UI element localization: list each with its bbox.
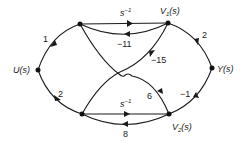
edge-gain-label: s−1 (120, 7, 131, 18)
node-b (80, 112, 85, 117)
node-label-v2: V2(s) (172, 122, 192, 133)
edge-v2-to-y: −1 (169, 68, 212, 114)
node-label-u: U(s) (13, 65, 30, 75)
edge-b-to-v2: s−1 (82, 98, 169, 117)
arrow-icon (122, 121, 128, 127)
node-v2 (167, 112, 172, 117)
edge-gain-label: 8 (123, 129, 128, 139)
edge-gain-label: −11 (117, 39, 132, 49)
node-y (210, 66, 215, 71)
edge-gain-label: −1 (180, 89, 190, 99)
arrow-icon (127, 20, 133, 27)
edge-gain-label: 2 (202, 30, 207, 40)
arrow-icon (124, 31, 130, 37)
node-label-y: Y(s) (217, 64, 234, 74)
edge-v2-to-b: 8 (82, 114, 169, 139)
edge-gain-label: 6 (147, 91, 152, 101)
edge-gain-label: −15 (151, 55, 166, 65)
edge-gain-label: 2 (58, 89, 63, 99)
edge-gain-label: s−1 (120, 98, 131, 109)
node-a (78, 22, 83, 27)
signal-flow-graph: 1 2 s−1 −11 −15 6 (0, 0, 247, 141)
edge-u-to-b: 2 (38, 70, 82, 114)
node-v1 (166, 21, 171, 26)
node-label-v1: V1(s) (160, 6, 180, 17)
node-u (36, 68, 41, 73)
edge-v1-to-y: 2 (168, 23, 212, 68)
edge-u-to-a: 1 (38, 24, 80, 70)
edge-gain-label: 1 (43, 34, 48, 44)
arrow-icon (124, 111, 130, 117)
edge-a-to-v1: s−1 (80, 7, 168, 27)
